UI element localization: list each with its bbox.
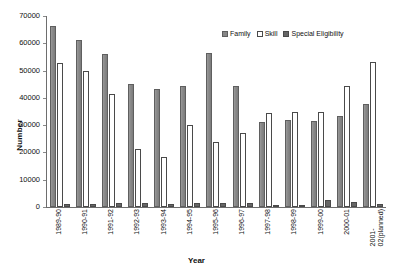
bar-group (203, 16, 229, 207)
x-tick-label-slot: 1989-90 (47, 209, 73, 255)
x-tick-label: 1999-00 (317, 209, 325, 235)
bar-group (334, 16, 360, 207)
bar-skill (187, 125, 193, 207)
y-tick-mark (43, 71, 46, 72)
bar-skill (344, 86, 350, 207)
bar-group (151, 16, 177, 207)
x-tick-label: 1992-93 (133, 209, 141, 235)
x-tick-label: 2001- 02(planned) (369, 209, 385, 246)
bar-skill (135, 149, 141, 207)
y-tick-mark (43, 152, 46, 153)
bar-skill (240, 133, 246, 207)
x-tick-label-slot: 1992-93 (125, 209, 151, 255)
bar-group (230, 16, 256, 207)
bar-group (73, 16, 99, 207)
bar-group (360, 16, 386, 207)
bar-skill (213, 142, 219, 207)
bar-special (142, 203, 148, 207)
bar-special (325, 200, 331, 207)
y-tick-mark (43, 180, 46, 181)
x-tick-label: 1998-99 (290, 209, 298, 235)
bar-family (180, 86, 186, 207)
bar-special (168, 204, 174, 207)
y-tick-label: 0 (36, 203, 40, 211)
bar-skill (57, 63, 63, 207)
bar-skill (109, 94, 115, 207)
bar-family (50, 26, 56, 207)
bar-skill (83, 71, 89, 207)
x-tick-label-slot: 2000-01 (335, 209, 361, 255)
bar-skill (318, 112, 324, 208)
x-tick-label-slot: 2001- 02(planned) (361, 209, 387, 255)
bar-special (90, 204, 96, 207)
bar-group-container (47, 16, 386, 207)
x-tick-label-slot: 1995-96 (204, 209, 230, 255)
x-tick-label-slot: 1994-95 (178, 209, 204, 255)
bar-family (337, 116, 343, 207)
bar-family (311, 121, 317, 207)
x-tick-label: 1993-94 (160, 209, 168, 235)
x-tick-label-slot: 1999-00 (309, 209, 335, 255)
bar-group (256, 16, 282, 207)
y-tick-label: 30000 (19, 121, 40, 129)
y-tick-mark (43, 125, 46, 126)
bar-family (154, 89, 160, 207)
y-tick-label: 50000 (19, 67, 40, 75)
y-tick-label: 70000 (19, 12, 40, 20)
y-tick-mark (43, 43, 46, 44)
x-tick-label: 1990-91 (81, 209, 89, 235)
bar-special (273, 205, 279, 207)
bar-family (363, 104, 369, 207)
x-tick-label: 2000-01 (343, 209, 351, 235)
bar-group (47, 16, 73, 207)
bar-group (308, 16, 334, 207)
bar-special (64, 204, 70, 207)
bar-special (220, 203, 226, 207)
y-tick-label: 60000 (19, 40, 40, 48)
y-tick-label: 20000 (19, 149, 40, 157)
y-tick-mark (43, 207, 46, 208)
bar-group (177, 16, 203, 207)
plot-area: 010000200003000040000500006000070000 (46, 16, 386, 207)
bar-group (282, 16, 308, 207)
x-tick-label: 1994-95 (186, 209, 194, 235)
bar-special (351, 202, 357, 207)
bar-special (247, 203, 253, 207)
bar-special (194, 203, 200, 207)
x-tick-label-slot: 1991-92 (99, 209, 125, 255)
y-tick-mark (43, 98, 46, 99)
bar-family (128, 84, 134, 207)
bar-skill (370, 62, 376, 207)
bar-group (99, 16, 125, 207)
x-tick-label-slot: 1996-97 (230, 209, 256, 255)
y-tick-label: 40000 (19, 94, 40, 102)
x-tick-label: 1996-97 (238, 209, 246, 235)
bar-group (125, 16, 151, 207)
bar-family (206, 53, 212, 207)
bar-family (76, 40, 82, 207)
bar-skill (266, 113, 272, 207)
x-axis-title: Year (0, 256, 393, 265)
x-tick-label-group: 1989-901990-911991-921992-931993-941994-… (47, 209, 387, 255)
bar-special (116, 203, 122, 207)
bar-special (377, 204, 383, 207)
x-tick-label-slot: 1990-91 (73, 209, 99, 255)
y-tick-label: 10000 (19, 176, 40, 184)
bar-family (102, 54, 108, 207)
x-tick-label: 1997-98 (264, 209, 272, 235)
x-tick-label-slot: 1998-99 (282, 209, 308, 255)
bar-family (233, 86, 239, 207)
x-tick-label-slot: 1993-94 (152, 209, 178, 255)
bar-special (299, 205, 305, 207)
x-tick-label: 1995-96 (212, 209, 220, 235)
bar-skill (161, 157, 167, 207)
bar-chart: Number Family Skill Special Eligibility … (0, 0, 393, 270)
bar-family (259, 122, 265, 207)
x-tick-label: 1991-92 (107, 209, 115, 235)
bar-skill (292, 112, 298, 207)
bar-family (285, 120, 291, 207)
x-tick-label: 1989-90 (55, 209, 63, 235)
x-tick-label-slot: 1997-98 (256, 209, 282, 255)
y-tick-mark (43, 16, 46, 17)
